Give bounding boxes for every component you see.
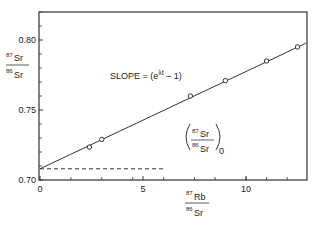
data-point <box>87 145 91 149</box>
y-tick-label: 0.80 <box>18 35 36 45</box>
x-label-den-mass: 86 <box>186 206 193 212</box>
y-tick-label: 0.70 <box>18 175 36 185</box>
axis-tick-labels: 05100.700.750.80 <box>18 35 251 194</box>
data-point <box>223 78 227 82</box>
data-point <box>100 137 104 141</box>
slope-suffix: – 1) <box>164 71 182 81</box>
x-label-num-element: Rb <box>194 192 206 202</box>
x-tick-label: 5 <box>140 184 145 194</box>
x-tick-label: 0 <box>37 184 42 194</box>
y-label-den-element: Sr <box>14 70 23 80</box>
data-point <box>264 59 268 63</box>
slope-annotation: SLOPE = (eλt – 1) <box>110 69 182 81</box>
data-point <box>188 94 192 98</box>
y-label-num-element: Sr <box>14 53 23 63</box>
initial-ratio-annotation: 87 Sr 86 Sr 0 <box>186 124 224 156</box>
slope-prefix: SLOPE = (e <box>110 71 158 81</box>
y-tick-label: 0.75 <box>18 105 36 115</box>
ratio-num-mass: 87 <box>192 128 199 134</box>
ratio-den-mass: 86 <box>192 142 199 148</box>
ratio-num-element: Sr <box>200 129 209 139</box>
ratio-den-element: Sr <box>200 144 209 154</box>
x-tick-label: 10 <box>241 184 251 194</box>
slope-text: SLOPE = (eλt – 1) <box>110 69 182 81</box>
y-label-num-mass: 87 <box>6 52 13 58</box>
ratio-subscript: 0 <box>219 146 224 156</box>
left-paren <box>186 124 190 150</box>
isochron-chart: 05100.700.750.80 87 Sr 86 Sr 87 Rb 86 Sr… <box>0 0 316 225</box>
x-axis-label: 87 Rb 86 Sr <box>185 190 209 218</box>
x-label-den-element: Sr <box>194 208 203 218</box>
data-point <box>295 45 299 49</box>
axis-ticks <box>39 12 287 180</box>
plot-frame <box>39 12 307 180</box>
x-label-num-mass: 87 <box>186 190 193 196</box>
y-label-den-mass: 86 <box>6 68 13 74</box>
y-axis-label: 87 Sr 86 Sr <box>6 52 29 80</box>
